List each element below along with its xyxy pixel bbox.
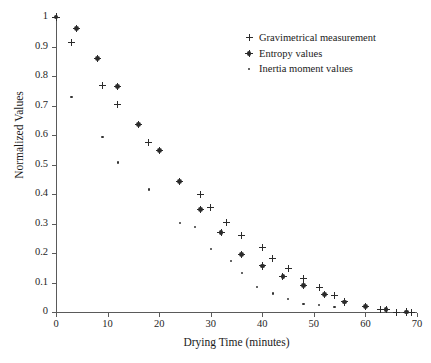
x-tick	[108, 313, 109, 317]
x-tick	[159, 313, 160, 317]
data-point	[318, 304, 320, 306]
data-point	[194, 226, 196, 228]
data-point	[241, 272, 243, 274]
data-point	[101, 136, 103, 138]
data-point	[239, 251, 245, 257]
y-tick	[52, 194, 56, 195]
data-point	[272, 292, 274, 294]
x-tick-label: 70	[402, 318, 431, 329]
data-point	[156, 147, 162, 153]
dot-marker-icon	[243, 63, 255, 75]
legend-item-entropy: Entropy values	[243, 46, 376, 62]
star-marker-icon	[243, 47, 255, 59]
data-point	[197, 206, 203, 212]
x-tick	[56, 313, 57, 317]
scatter-chart-figure: 00.10.20.30.40.50.60.70.80.91 0102030405…	[0, 0, 431, 363]
y-tick	[52, 283, 56, 284]
data-point	[145, 139, 152, 146]
data-point	[302, 303, 304, 305]
data-point	[230, 260, 232, 262]
data-point	[99, 82, 106, 89]
x-tick-label: 10	[93, 318, 123, 329]
x-tick	[211, 313, 212, 317]
y-tick	[52, 17, 56, 18]
x-tick	[262, 313, 263, 317]
y-axis-title: Normalized Values	[13, 75, 25, 195]
y-tick	[52, 47, 56, 48]
data-point	[210, 248, 212, 250]
data-point	[285, 265, 292, 272]
data-point	[259, 244, 266, 251]
data-point	[362, 303, 369, 310]
x-tick-label: 0	[41, 318, 71, 329]
data-point	[136, 122, 142, 128]
x-tick-label: 60	[350, 318, 380, 329]
legend-item-inertia: Inertia moment values	[243, 61, 376, 77]
data-point	[74, 26, 80, 32]
y-axis-line	[56, 16, 57, 313]
data-point	[117, 161, 119, 163]
y-tick-label: 1	[14, 11, 48, 22]
y-tick	[52, 253, 56, 254]
data-point	[269, 255, 276, 262]
data-point	[114, 101, 121, 108]
y-tick	[52, 224, 56, 225]
data-point	[362, 303, 368, 309]
data-point	[68, 39, 75, 46]
data-point	[148, 188, 150, 190]
data-point	[207, 204, 214, 211]
x-axis-line	[56, 312, 417, 313]
data-point	[223, 219, 230, 226]
data-point	[333, 306, 335, 308]
data-point	[342, 299, 348, 305]
y-tick-label: 0.9	[14, 41, 48, 52]
x-tick-label: 20	[144, 318, 174, 329]
y-tick-label: 0	[14, 306, 48, 317]
data-point	[70, 96, 72, 98]
data-point	[316, 284, 323, 291]
data-point	[287, 298, 289, 300]
data-point	[218, 229, 224, 235]
data-point	[197, 191, 204, 198]
data-point	[300, 275, 307, 282]
x-tick	[314, 313, 315, 317]
data-point	[259, 263, 265, 269]
data-point	[280, 274, 286, 280]
data-point	[115, 83, 121, 89]
data-point	[177, 179, 183, 185]
data-point	[301, 283, 307, 289]
x-tick-label: 30	[196, 318, 226, 329]
data-point	[238, 232, 245, 239]
legend-label: Entropy values	[259, 46, 322, 62]
y-tick-label: 0.3	[14, 218, 48, 229]
y-tick	[52, 165, 56, 166]
data-point	[331, 292, 338, 299]
x-tick-label: 50	[299, 318, 329, 329]
data-point	[256, 286, 258, 288]
data-point	[321, 291, 327, 297]
x-tick-label: 40	[247, 318, 277, 329]
legend-label: Inertia moment values	[259, 61, 353, 77]
x-tick	[365, 313, 366, 317]
y-tick	[52, 106, 56, 107]
chart-legend: Gravimetrical measurement Entropy values…	[243, 30, 376, 77]
y-tick-label: 0.1	[14, 277, 48, 288]
y-tick	[52, 76, 56, 77]
y-tick	[52, 135, 56, 136]
x-tick	[417, 313, 418, 317]
data-point	[94, 56, 100, 62]
plus-marker-icon	[243, 32, 255, 44]
y-tick-label: 0.2	[14, 247, 48, 258]
legend-label: Gravimetrical measurement	[259, 30, 376, 46]
data-point	[179, 222, 181, 224]
legend-item-gravimetrical: Gravimetrical measurement	[243, 30, 376, 46]
x-axis-title: Drying Time (minutes)	[56, 336, 417, 348]
